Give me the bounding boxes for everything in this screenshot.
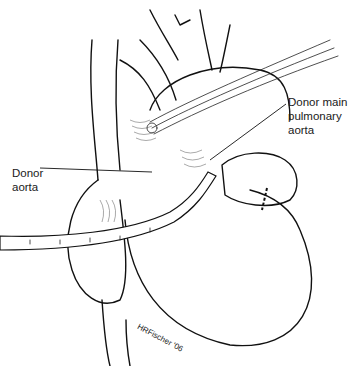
- heart-drawing: [0, 0, 354, 366]
- illustration: [0, 0, 354, 366]
- pulmonary-stub: [222, 153, 297, 205]
- donor-aorta-leader: [40, 168, 152, 172]
- pulmonary-aorta-leader: [210, 104, 286, 160]
- pulmonary-label-line3: aorta: [288, 123, 347, 137]
- donor-main-pulmonary-aorta-label: Donor main pulmonary aorta: [288, 95, 347, 137]
- pulmonary-label-line1: Donor main: [288, 95, 347, 109]
- carotid-branch: [150, 10, 190, 60]
- inferior-vena-cava: [102, 300, 130, 366]
- donor-aorta-label-line2: aorta: [12, 180, 43, 194]
- brachiocephalic-artery: [120, 40, 176, 110]
- donor-aorta-label-line1: Donor: [12, 166, 43, 180]
- donor-aorta-label: Donor aorta: [12, 166, 43, 194]
- superior-vena-cava: [91, 40, 120, 180]
- aortic-arch: [150, 67, 290, 120]
- suture-line: [262, 188, 267, 210]
- left-subclavian: [200, 10, 230, 72]
- ventricle: [125, 190, 312, 346]
- pulmonary-label-line2: pulmonary: [288, 109, 347, 123]
